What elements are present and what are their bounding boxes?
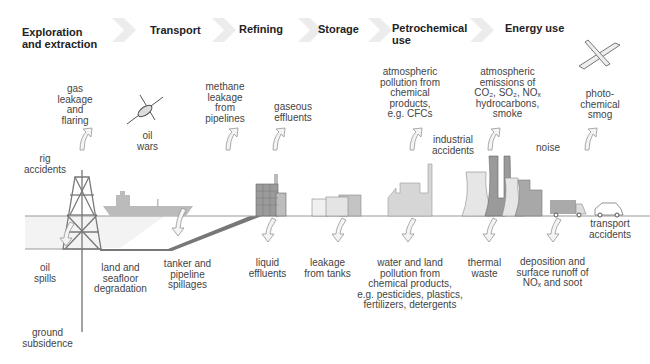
down-arrow-icon: [402, 218, 416, 242]
label-methane: methane leakage from pipelines: [200, 82, 250, 124]
label-photochemical-smog: photo- chemical smog: [575, 89, 625, 121]
label-land-seafloor: land and seafloor degradation: [88, 263, 153, 295]
stage-energy-use: Energy use: [505, 22, 564, 34]
label-gas-leakage: gas leakage and flaring: [50, 84, 100, 126]
label-oil-wars: oil wars: [130, 131, 165, 152]
label-rig-accidents: rig accidents: [20, 154, 70, 175]
fighter-jet-icon: [127, 95, 163, 124]
down-arrow-icon: [332, 218, 346, 242]
airplane-icon: [579, 40, 620, 69]
label-noise: noise: [528, 143, 568, 154]
label-tanker-spillages: tanker and pipeline spillages: [155, 259, 220, 291]
petrochemical-plant-icon: [388, 164, 432, 216]
up-arrow-icon: [488, 128, 500, 150]
stage-exploration: Exploration and extraction: [22, 26, 97, 50]
label-thermal-waste: thermal waste: [462, 258, 507, 279]
stage-storage: Storage: [318, 23, 359, 35]
tanker-ship-icon: [103, 191, 193, 216]
up-arrow-icon: [410, 128, 422, 150]
down-arrow-icon: [262, 218, 276, 242]
label-atmospheric-chemical: atmospheric pollution from chemical prod…: [375, 67, 445, 120]
label-water-land-pollution: water and land pollution from chemical p…: [355, 258, 465, 311]
stage-transport: Transport: [150, 24, 201, 36]
label-liquid-effluents: liquid effluents: [240, 258, 295, 279]
truck-icon: [550, 200, 586, 217]
down-arrow-icon: [483, 218, 497, 242]
label-oil-spills: oil spills: [30, 263, 60, 284]
down-arrow-icon: [547, 218, 561, 242]
label-gaseous: gaseous effluents: [268, 102, 318, 123]
label-deposition: deposition and surface runoff of NOₓ and…: [510, 257, 595, 289]
stage-refining: Refining: [239, 23, 283, 35]
power-plant-icon: [462, 156, 542, 216]
label-leakage-tanks: leakage from tanks: [295, 258, 360, 279]
label-industrial-accidents: industrial accidents: [428, 135, 478, 156]
up-arrow-icon: [585, 128, 597, 150]
car-icon: [595, 203, 623, 217]
up-arrow-icon: [80, 128, 92, 150]
storage-tanks-icon: [312, 195, 361, 216]
up-arrow-icon: [273, 128, 285, 150]
label-transport-accidents: transport accidents: [585, 219, 635, 240]
label-ground-subsidence: ground subsidence: [20, 328, 75, 349]
stage-petrochemical: Petrochemical use: [392, 22, 467, 46]
up-arrow-icon: [226, 128, 238, 150]
diagram-art: [0, 0, 650, 364]
refinery-icon: [256, 174, 286, 216]
label-atmospheric-emissions: atmospheric emissions of CO₂, SO₂, NOₓ h…: [470, 67, 545, 120]
